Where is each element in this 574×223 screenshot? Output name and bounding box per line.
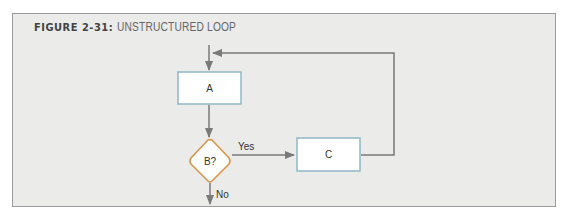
process-box-a: A: [178, 72, 241, 104]
yes-label: Yes: [238, 141, 254, 152]
decision-diamond-b: B?: [190, 140, 230, 183]
flowchart: A B? Yes C No: [0, 0, 574, 223]
box-c-label: C: [325, 149, 332, 160]
no-label: No: [216, 189, 229, 200]
decision-b-label: B?: [204, 156, 217, 167]
process-box-c: C: [297, 138, 360, 171]
box-a-label: A: [206, 83, 213, 94]
